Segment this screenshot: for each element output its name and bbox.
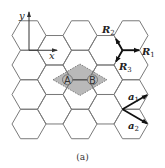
x-axis-label: x bbox=[49, 50, 55, 61]
a2-label: a2 bbox=[128, 120, 139, 133]
y-axis-label: y bbox=[18, 10, 25, 21]
atom-a-label: A bbox=[64, 75, 71, 86]
lattice-diagram: A B y x R1 R2 R3 a1 a2 (a) bbox=[0, 0, 165, 168]
hexagon-cell bbox=[12, 50, 46, 79]
r3-label: R3 bbox=[118, 61, 132, 74]
atom-b-label: B bbox=[89, 75, 96, 86]
hexagon-cell bbox=[12, 80, 46, 109]
hexagon-cell bbox=[38, 95, 72, 124]
hexagon-cell bbox=[12, 109, 46, 138]
figure-caption: (a) bbox=[76, 152, 88, 162]
hexagon-cell bbox=[89, 95, 123, 124]
hexagon-cell bbox=[63, 109, 97, 138]
r3-vector bbox=[116, 50, 123, 61]
honeycomb-figure: A B y x R1 R2 R3 a1 a2 (a) bbox=[0, 0, 165, 168]
hexagon-cell bbox=[63, 21, 97, 50]
r2-vector bbox=[116, 39, 123, 50]
